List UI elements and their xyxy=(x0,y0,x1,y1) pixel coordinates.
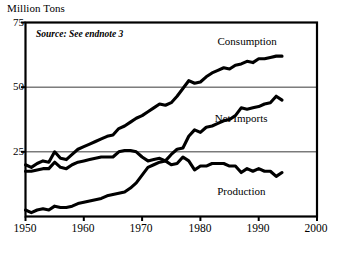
axis-tick-marks xyxy=(21,23,317,222)
caption-strip xyxy=(0,246,337,254)
data-series-lines xyxy=(26,56,283,212)
gridlines xyxy=(26,87,318,152)
plot-frame xyxy=(26,23,318,217)
line-chart-plot xyxy=(0,0,337,254)
